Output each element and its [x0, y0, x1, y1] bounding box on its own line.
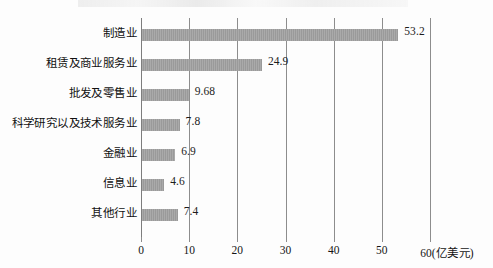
x-tick-label: 50 [376, 244, 388, 256]
tick-mark-30 [286, 237, 287, 242]
x-tick-label: 10 [183, 244, 195, 256]
category-label-container: 制造业 [0, 20, 137, 50]
bar-row: 金融业6.9 [141, 140, 430, 170]
bar-value-label: 53.2 [404, 25, 425, 37]
tick-mark-60 [430, 237, 431, 242]
x-tick-value: 50 [376, 244, 388, 256]
bar [142, 209, 178, 221]
x-axis-unit-label: (亿美元) [432, 247, 474, 259]
category-label: 其他行业 [91, 204, 137, 220]
bar-row: 制造业53.2 [141, 20, 430, 50]
bar-chart: 制造业53.2租赁及商业服务业24.9批发及零售业9.68科学研究以及技术服务业… [0, 0, 493, 268]
x-tick-value: 40 [328, 244, 340, 256]
category-label: 制造业 [103, 24, 137, 40]
category-label: 批发及零售业 [69, 84, 137, 100]
bar-value-label: 4.6 [170, 175, 185, 187]
category-label-container: 批发及零售业 [0, 80, 137, 110]
x-tick-label: 30 [280, 244, 292, 256]
category-label-container: 租赁及商业服务业 [0, 50, 137, 80]
bar-row: 科学研究以及技术服务业7.8 [141, 110, 430, 140]
category-label-container: 其他行业 [0, 200, 137, 230]
tick-mark-20 [237, 237, 238, 242]
bar [142, 179, 164, 191]
x-tick-label: 60(亿美元) [420, 244, 474, 260]
category-label: 科学研究以及技术服务业 [12, 114, 137, 130]
x-tick-value: 0 [138, 244, 144, 256]
x-tick-label: 40 [328, 244, 340, 256]
tick-mark-40 [334, 237, 335, 242]
bar-row: 其他行业7.4 [141, 200, 430, 230]
bar-value-label: 7.4 [184, 205, 199, 217]
bar-row: 信息业4.6 [141, 170, 430, 200]
category-label: 信息业 [103, 174, 137, 190]
gridline-60 [430, 18, 431, 237]
bar [142, 119, 180, 131]
plot-area: 制造业53.2租赁及商业服务业24.9批发及零售业9.68科学研究以及技术服务业… [141, 18, 430, 237]
bar-value-label: 6.9 [181, 145, 196, 157]
bar [142, 89, 189, 101]
bar-value-label: 7.8 [186, 115, 201, 127]
bar-value-label: 24.9 [268, 55, 289, 67]
bar-row: 租赁及商业服务业24.9 [141, 50, 430, 80]
bar [142, 149, 175, 161]
category-label: 租赁及商业服务业 [46, 54, 137, 70]
x-tick-value: 20 [232, 244, 244, 256]
scan-artifact [78, 0, 408, 7]
bar-row: 批发及零售业9.68 [141, 80, 430, 110]
x-tick-label: 20 [232, 244, 244, 256]
bar [142, 59, 262, 71]
tick-mark-0 [141, 237, 142, 242]
x-tick-label: 0 [138, 244, 144, 256]
category-label-container: 金融业 [0, 140, 137, 170]
x-tick-value: 60 [420, 247, 432, 259]
x-tick-value: 30 [280, 244, 292, 256]
tick-mark-50 [382, 237, 383, 242]
tick-mark-10 [189, 237, 190, 242]
bar [142, 29, 398, 41]
bar-value-label: 9.68 [195, 85, 216, 97]
category-label: 金融业 [103, 144, 137, 160]
x-tick-value: 10 [183, 244, 195, 256]
category-label-container: 科学研究以及技术服务业 [0, 110, 137, 140]
category-label-container: 信息业 [0, 170, 137, 200]
